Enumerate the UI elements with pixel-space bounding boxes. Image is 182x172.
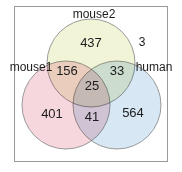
set-label-mouse2: mouse2 — [73, 7, 116, 21]
count-outside: 3 — [139, 35, 146, 49]
venn-diagram-svg: 437 156 33 25 401 41 564 3 mouse2 mouse1… — [0, 0, 182, 172]
count-all-three: 25 — [85, 78, 99, 93]
count-mouse1-only: 401 — [41, 106, 63, 121]
count-human-only: 564 — [122, 105, 144, 120]
count-mouse2-human: 33 — [110, 63, 124, 78]
count-mouse1-human: 41 — [85, 109, 99, 124]
count-mouse2-only: 437 — [80, 35, 102, 50]
venn-figure: 437 156 33 25 401 41 564 3 mouse2 mouse1… — [0, 0, 182, 172]
set-label-mouse1: mouse1 — [10, 60, 53, 74]
count-mouse1-mouse2: 156 — [56, 63, 78, 78]
set-label-human: human — [136, 60, 173, 74]
